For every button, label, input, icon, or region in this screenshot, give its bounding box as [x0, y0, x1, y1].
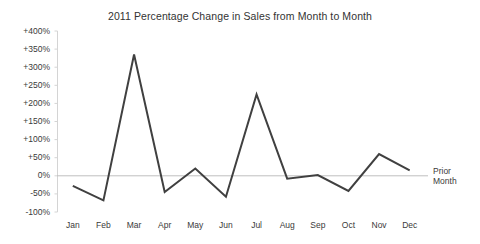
- y-axis-tick-label: +50%: [6, 153, 50, 162]
- y-axis-tick-label: -50%: [6, 189, 50, 198]
- y-axis-tick-label: +150%: [6, 117, 50, 126]
- y-axis-tick-label: +400%: [6, 27, 50, 36]
- prior-month-line1: Prior: [433, 166, 457, 176]
- y-axis-group: [55, 31, 58, 212]
- chart-plot-area: [0, 0, 480, 244]
- sales-change-line: [73, 55, 410, 201]
- y-axis-tick-label: -100%: [6, 208, 50, 217]
- chart-container: 2011 Percentage Change in Sales from Mon…: [0, 0, 480, 244]
- y-axis-tick-label: +200%: [6, 99, 50, 108]
- y-axis-tick-label: +100%: [6, 135, 50, 144]
- x-axis-tick-label: Dec: [390, 221, 430, 230]
- prior-month-line2: Month: [433, 176, 457, 186]
- y-axis-tick-label: 0%: [6, 171, 50, 180]
- y-axis-tick-label: +350%: [6, 45, 50, 54]
- y-axis-tick-label: +250%: [6, 81, 50, 90]
- y-axis-tick-label: +300%: [6, 63, 50, 72]
- prior-month-annotation: Prior Month: [433, 166, 457, 186]
